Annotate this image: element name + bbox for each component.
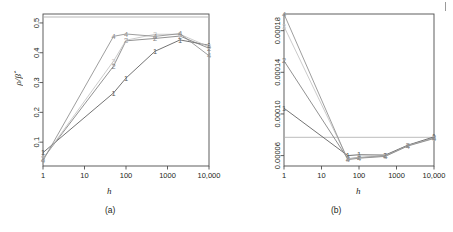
- x-tick-label: 1000: [388, 171, 405, 180]
- y-tick-label: 0.00018: [273, 17, 282, 44]
- x-tick-label: 10: [80, 171, 88, 180]
- data-point-marker-1: 1: [124, 74, 128, 83]
- x-tick-label: 10,000: [198, 171, 221, 180]
- data-point-marker-4: 4: [153, 32, 157, 41]
- page-edge-mark: [445, 2, 446, 11]
- x-tick-label: 100: [120, 171, 133, 180]
- panel-a-y-axis-label: ρ/β̂: [13, 74, 23, 86]
- y-tick-label: 0.5: [32, 18, 41, 28]
- panel-b-caption: (b): [331, 205, 341, 215]
- data-point-marker-2: 2: [282, 56, 286, 65]
- panel-a-x-axis-label: h: [107, 186, 112, 196]
- figure-two-panel-chart: 110100100010,0000.10.20.30.40.5111111222…: [0, 0, 453, 232]
- y-tick-label: 0.2: [32, 107, 41, 117]
- data-point-marker-4: 4: [346, 155, 350, 164]
- data-point-marker-4: 4: [432, 134, 436, 143]
- x-tick-label: 10,000: [423, 171, 446, 180]
- plot-frame: [284, 14, 434, 166]
- data-point-marker-4: 4: [383, 152, 387, 161]
- y-tick-label: 0.00010: [273, 100, 282, 127]
- y-tick-label: 0.00006: [273, 142, 282, 169]
- panel-a: 110100100010,0000.10.20.30.40.5111111222…: [0, 0, 226, 232]
- data-point-marker-4: 4: [207, 51, 211, 60]
- panel-b-x-axis-label: h: [356, 186, 361, 196]
- series-line-4: [43, 34, 209, 161]
- x-tick-label: 1: [282, 171, 286, 180]
- y-tick-label: 0.1: [32, 137, 41, 147]
- y-tick-label: 0.00014: [273, 59, 282, 86]
- data-point-marker-4: 4: [41, 156, 45, 165]
- series-line-3: [43, 34, 209, 158]
- data-point-marker-1: 1: [282, 104, 286, 113]
- series-line-1: [284, 108, 434, 155]
- data-point-marker-4: 4: [124, 30, 128, 39]
- panel-b-plot: 110100100010,0000.000060.000100.000140.0…: [226, 0, 453, 232]
- series-line-3: [284, 26, 434, 158]
- series-line-1: [43, 40, 209, 153]
- x-tick-label: 1: [41, 171, 45, 180]
- series-line-2: [43, 36, 209, 159]
- y-tick-label: 0.3: [32, 77, 41, 87]
- data-point-marker-4: 4: [406, 142, 410, 151]
- data-point-marker-3: 3: [282, 22, 286, 31]
- panel-a-caption: (a): [105, 205, 115, 215]
- x-tick-label: 10: [317, 171, 325, 180]
- data-point-marker-1: 1: [153, 47, 157, 56]
- x-tick-label: 1000: [159, 171, 176, 180]
- panel-a-plot: 110100100010,0000.10.20.30.40.5111111222…: [0, 0, 226, 232]
- data-point-marker-4: 4: [357, 154, 361, 163]
- data-point-marker-4: 4: [111, 32, 115, 41]
- data-point-marker-4: 4: [178, 29, 182, 38]
- data-point-marker-3: 3: [207, 42, 211, 51]
- data-point-marker-4: 4: [282, 10, 286, 19]
- data-point-marker-3: 3: [111, 57, 115, 66]
- series-line-2: [284, 61, 434, 159]
- panel-b: 110100100010,0000.000060.000100.000140.0…: [226, 0, 453, 232]
- y-tick-label: 0.4: [32, 48, 41, 58]
- data-point-marker-1: 1: [111, 89, 115, 98]
- x-tick-label: 100: [353, 171, 366, 180]
